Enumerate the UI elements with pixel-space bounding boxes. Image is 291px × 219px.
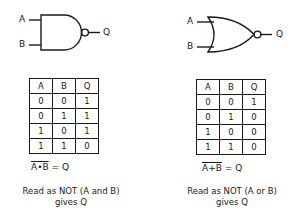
cell-q: 1 xyxy=(76,94,99,109)
cell-q: 0 xyxy=(243,125,266,140)
cell-a: 0 xyxy=(197,95,220,110)
cell-b: 0 xyxy=(53,124,76,139)
cell-a: 0 xyxy=(197,110,220,125)
cell-b: 1 xyxy=(53,109,76,124)
nor-truth-table: A B Q 0 0 1 0 1 0 1 0 0 1 1 0 xyxy=(196,79,266,155)
table-header-row: A B Q xyxy=(197,80,266,95)
table-row: 0 1 1 xyxy=(30,109,99,124)
cell-b: 1 xyxy=(220,110,243,125)
nor-input-b-label: B xyxy=(187,42,193,51)
cell-a: 0 xyxy=(30,94,53,109)
nor-output-q-label: Q xyxy=(276,30,283,39)
nand-expression-result: = Q xyxy=(49,162,69,172)
header-q: Q xyxy=(76,79,99,94)
cell-q: 1 xyxy=(76,124,99,139)
nor-boolean-expression: A+B = Q xyxy=(202,163,242,173)
cell-b: 1 xyxy=(53,139,76,154)
nand-truth-table: A B Q 0 0 1 0 1 1 1 0 1 1 1 0 xyxy=(29,78,99,154)
nand-caption-line-2: gives Q xyxy=(0,197,142,208)
header-a: A xyxy=(30,79,53,94)
cell-b: 0 xyxy=(220,95,243,110)
cell-b: 0 xyxy=(220,125,243,140)
cell-q: 0 xyxy=(243,140,266,155)
nand-caption-line-1: Read as NOT (A and B) xyxy=(0,186,142,197)
header-b: B xyxy=(53,79,76,94)
cell-q: 0 xyxy=(76,139,99,154)
cell-a: 1 xyxy=(30,139,53,154)
nor-expression-overbar: A+B xyxy=(202,163,222,173)
nand-input-a-label: A xyxy=(19,15,25,24)
nor-caption: Read as NOT (A or B) gives Q xyxy=(162,186,291,208)
table-header-row: A B Q xyxy=(30,79,99,94)
nand-expression-overbar: A•B xyxy=(31,162,49,172)
cell-a: 1 xyxy=(30,124,53,139)
nor-caption-line-1: Read as NOT (A or B) xyxy=(162,186,291,197)
cell-q: 0 xyxy=(243,110,266,125)
nand-caption: Read as NOT (A and B) gives Q xyxy=(0,186,142,208)
table-row: 0 0 1 xyxy=(30,94,99,109)
header-q: Q xyxy=(243,80,266,95)
header-a: A xyxy=(197,80,220,95)
cell-q: 1 xyxy=(243,95,266,110)
nor-gate-symbol xyxy=(197,17,272,52)
nor-input-a-label: A xyxy=(187,17,193,26)
table-row: 1 0 0 xyxy=(197,125,266,140)
table-row: 0 1 0 xyxy=(197,110,266,125)
cell-a: 1 xyxy=(197,125,220,140)
table-row: 1 0 1 xyxy=(30,124,99,139)
cell-b: 0 xyxy=(53,94,76,109)
nand-gate-symbol xyxy=(29,15,100,50)
header-b: B xyxy=(220,80,243,95)
table-row: 1 1 0 xyxy=(30,139,99,154)
table-row: 0 0 1 xyxy=(197,95,266,110)
nor-expression-result: = Q xyxy=(222,163,242,173)
table-row: 1 1 0 xyxy=(197,140,266,155)
nand-output-q-label: Q xyxy=(103,28,110,37)
nand-input-b-label: B xyxy=(19,40,25,49)
nand-boolean-expression: A•B = Q xyxy=(31,162,69,172)
cell-a: 0 xyxy=(30,109,53,124)
nor-caption-line-2: gives Q xyxy=(162,197,291,208)
gate-diagrams xyxy=(0,0,291,70)
cell-q: 1 xyxy=(76,109,99,124)
cell-b: 1 xyxy=(220,140,243,155)
cell-a: 1 xyxy=(197,140,220,155)
